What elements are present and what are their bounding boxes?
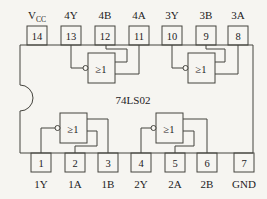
pin-label-1b: 1B	[102, 178, 115, 190]
wire-3y-output	[172, 45, 183, 68]
pin-label-vcc: VCC	[28, 9, 46, 24]
nor-gate-4: ≥1	[71, 45, 139, 83]
gate-symbol: ≥1	[195, 64, 206, 75]
inversion-bubble	[151, 126, 156, 131]
nor-gate-3: ≥1	[172, 45, 238, 83]
pin-number: 4	[138, 158, 144, 169]
pin-number: 8	[235, 31, 240, 42]
pin-label-3a: 3A	[231, 9, 245, 21]
pin-7: 7	[234, 153, 254, 172]
inversion-bubble	[55, 126, 60, 131]
pin-3: 3	[98, 153, 118, 172]
part-number-label: 74LS02	[116, 94, 151, 106]
pin-4: 4	[131, 153, 151, 172]
pin-number: 14	[32, 31, 43, 42]
pin-label-2y: 2Y	[134, 178, 148, 190]
pin-number: 11	[134, 31, 144, 42]
gate-symbol: ≥1	[95, 64, 106, 75]
wire-1y-output	[41, 128, 55, 153]
pin-label-1a: 1A	[68, 178, 82, 190]
pin-11: 11	[129, 26, 149, 45]
inversion-bubble	[183, 66, 188, 71]
wire-2b-input	[183, 119, 207, 153]
inversion-bubble	[83, 66, 88, 71]
pin-label-4b: 4B	[99, 9, 112, 21]
pin-13: 13	[61, 26, 81, 45]
pin-number: 10	[167, 31, 178, 42]
pin-number: 7	[241, 158, 246, 169]
pin-number: 1	[38, 158, 43, 169]
pin-label-3y: 3Y	[165, 9, 179, 21]
gate-symbol: ≥1	[67, 124, 78, 135]
pin-label-4y: 4Y	[64, 9, 78, 21]
pin-label-2a: 2A	[168, 178, 182, 190]
pin-label-gnd: GND	[232, 178, 256, 190]
wire-4y-output	[71, 45, 83, 68]
pin-number: 6	[204, 158, 209, 169]
pin-number: 2	[72, 158, 77, 169]
pin-9: 9	[196, 26, 216, 45]
pin-number: 3	[105, 158, 110, 169]
pin-14: 14	[27, 26, 47, 45]
ic-pinout-diagram: VCC 4Y 4B 4A 3Y 3B 3A 14 13 12 11 10 9 8…	[0, 0, 267, 199]
wire-2a-input	[175, 131, 194, 153]
pin-1: 1	[31, 153, 51, 172]
pin-number: 9	[203, 31, 208, 42]
pin-12: 12	[95, 26, 115, 45]
pin-8: 8	[228, 26, 248, 45]
vcc-main: V	[28, 9, 36, 21]
pin-5: 5	[165, 153, 185, 172]
pin-number: 12	[100, 31, 111, 42]
pin-6: 6	[197, 153, 217, 172]
pin-label-2b: 2B	[201, 178, 214, 190]
pin-10: 10	[162, 26, 182, 45]
pin-number: 13	[66, 31, 77, 42]
pin-label-3b: 3B	[200, 9, 213, 21]
pin-label-1y: 1Y	[34, 178, 48, 190]
pin-label-4a: 4A	[132, 9, 146, 21]
wire-2y-output	[141, 128, 151, 153]
gate-symbol: ≥1	[163, 124, 174, 135]
pin-number: 5	[172, 158, 177, 169]
vcc-subscript: CC	[36, 15, 46, 24]
nor-gate-1: ≥1	[41, 113, 108, 153]
pin-2: 2	[65, 153, 85, 172]
nor-gate-2: ≥1	[141, 113, 207, 153]
